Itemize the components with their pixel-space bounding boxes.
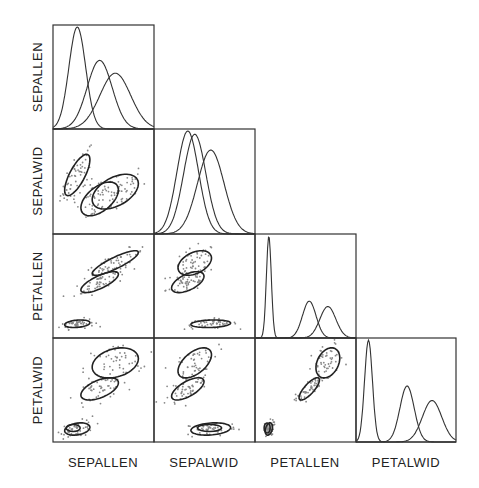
- data-point: [272, 419, 274, 421]
- data-point: [91, 322, 93, 324]
- data-point: [101, 268, 103, 270]
- x-label-0: SEPALLEN: [68, 455, 138, 470]
- data-point: [63, 197, 65, 199]
- data-point: [85, 426, 87, 428]
- data-point: [207, 260, 209, 262]
- data-point: [83, 317, 85, 319]
- data-point: [140, 367, 142, 369]
- density-curve-versicolor: [255, 301, 356, 338]
- data-point: [174, 289, 176, 291]
- data-point: [116, 260, 118, 262]
- data-point: [111, 379, 113, 381]
- data-point: [121, 201, 123, 203]
- data-point: [110, 387, 112, 389]
- data-point: [125, 267, 127, 269]
- data-point: [196, 367, 198, 369]
- data-point: [214, 356, 216, 358]
- data-point: [200, 322, 202, 324]
- data-point: [107, 187, 109, 189]
- data-point: [329, 357, 331, 359]
- data-point: [216, 323, 218, 325]
- data-point: [121, 356, 123, 358]
- data-point: [70, 188, 72, 190]
- data-point: [192, 263, 194, 265]
- data-point: [203, 376, 205, 378]
- data-point: [94, 355, 96, 357]
- data-point: [110, 260, 112, 262]
- data-point: [88, 269, 90, 271]
- data-point: [190, 393, 192, 395]
- data-point: [99, 326, 101, 328]
- data-point: [205, 352, 207, 354]
- data-point: [335, 361, 337, 363]
- data-point: [185, 283, 187, 285]
- data-point: [102, 390, 104, 392]
- data-point: [189, 325, 191, 327]
- data-point: [178, 361, 180, 363]
- data-point: [199, 351, 201, 353]
- data-point: [87, 150, 89, 152]
- data-point: [129, 254, 131, 256]
- data-point: [74, 195, 76, 197]
- data-point: [182, 264, 184, 266]
- data-point: [102, 270, 104, 272]
- data-point: [134, 268, 136, 270]
- data-point: [313, 385, 315, 387]
- data-point: [96, 281, 98, 283]
- data-point: [322, 356, 324, 358]
- data-point: [112, 198, 114, 200]
- data-point: [121, 261, 123, 263]
- data-point: [201, 325, 203, 327]
- data-point: [119, 264, 121, 266]
- data-point: [94, 209, 96, 211]
- data-point: [94, 211, 96, 213]
- data-point: [204, 262, 206, 264]
- y-label-2: PETALLEN: [30, 251, 45, 321]
- data-point: [167, 397, 169, 399]
- data-point: [90, 353, 92, 355]
- data-point: [177, 389, 179, 391]
- data-point: [195, 364, 197, 366]
- data-point: [192, 328, 194, 330]
- data-point: [64, 426, 66, 428]
- data-point: [118, 262, 120, 264]
- density-curve-setosa: [154, 150, 255, 234]
- data-point: [121, 190, 123, 192]
- data-point: [79, 192, 81, 194]
- data-point: [335, 343, 337, 345]
- data-point: [144, 366, 146, 368]
- data-point: [63, 295, 65, 297]
- cell-sepallen-vs-sepallen: [53, 25, 154, 129]
- data-point: [274, 423, 276, 425]
- cell-frame: [53, 25, 154, 129]
- data-point: [294, 399, 296, 401]
- data-point: [204, 270, 206, 272]
- cell-frame: [154, 338, 255, 442]
- cell-frame: [154, 129, 255, 234]
- data-point: [74, 168, 76, 170]
- data-point: [322, 346, 324, 348]
- data-point: [208, 427, 210, 429]
- data-point: [315, 383, 317, 385]
- data-point: [134, 187, 136, 189]
- y-label-0: SEPALLEN: [30, 42, 45, 112]
- data-point: [184, 271, 186, 273]
- density-curve-setosa: [255, 237, 356, 338]
- data-point: [220, 348, 222, 350]
- data-point: [88, 288, 90, 290]
- data-point: [323, 362, 325, 364]
- data-point: [185, 251, 187, 253]
- data-point: [119, 364, 121, 366]
- data-point: [181, 395, 183, 397]
- data-point: [138, 370, 140, 372]
- y-label-1: SEPALWID: [30, 146, 45, 215]
- data-point: [208, 255, 210, 257]
- data-point: [193, 366, 195, 368]
- data-point: [114, 194, 116, 196]
- data-point: [107, 379, 109, 381]
- data-point: [116, 208, 118, 210]
- data-point: [205, 350, 207, 352]
- data-point: [169, 289, 171, 291]
- cell-sepalwid-vs-sepalwid: [154, 129, 255, 234]
- data-point: [155, 401, 157, 403]
